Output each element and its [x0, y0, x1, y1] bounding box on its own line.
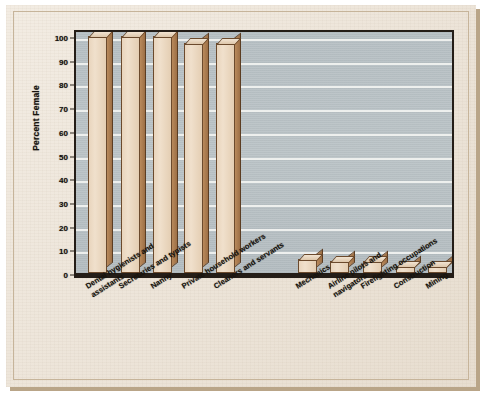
- y-axis-tick-0: 0: [42, 271, 68, 280]
- y-axis-tick-80: 80: [42, 81, 68, 90]
- y-axis-tick-40: 40: [42, 176, 68, 185]
- bar-front-face: [216, 43, 235, 273]
- y-axis-tick-90: 90: [42, 57, 68, 66]
- y-axis-title: Percent Female: [31, 63, 41, 173]
- plot-area: [74, 30, 454, 278]
- bar-side-face: [202, 33, 209, 268]
- bar-front-face: [184, 43, 203, 273]
- y-axis-tick-labels: 0102030405060708090100: [42, 37, 68, 275]
- bar-1: [88, 36, 107, 273]
- bar-front-face: [121, 36, 140, 273]
- scanned-page: Percent Female 0102030405060708090100 De…: [0, 0, 489, 401]
- bar-front-face: [88, 36, 107, 273]
- bar-10: [396, 266, 415, 273]
- bar-7: [298, 259, 317, 273]
- y-axis-tick-30: 30: [42, 199, 68, 208]
- bar-9: [363, 261, 382, 273]
- y-axis-tick-20: 20: [42, 223, 68, 232]
- bar-8: [330, 261, 349, 273]
- x-axis-baseline: [76, 273, 452, 276]
- y-axis-tick-10: 10: [42, 247, 68, 256]
- bar-top-face: [428, 261, 453, 268]
- bar-3: [153, 36, 172, 273]
- bar-side-face: [171, 30, 178, 268]
- bar-4: [184, 43, 203, 273]
- bar-chart-figure: Percent Female 0102030405060708090100 De…: [6, 5, 476, 387]
- bar-11: [428, 266, 447, 273]
- bar-side-face: [139, 30, 146, 268]
- bar-top-face: [396, 261, 421, 268]
- y-axis-tick-70: 70: [42, 105, 68, 114]
- bar-5: [216, 43, 235, 273]
- y-axis-tick-60: 60: [42, 128, 68, 137]
- bar-side-face: [106, 30, 113, 268]
- bar-side-face: [234, 33, 241, 268]
- y-axis-tick-50: 50: [42, 152, 68, 161]
- bar-2: [121, 36, 140, 273]
- y-axis-tick-100: 100: [42, 34, 68, 43]
- bar-front-face: [153, 36, 172, 273]
